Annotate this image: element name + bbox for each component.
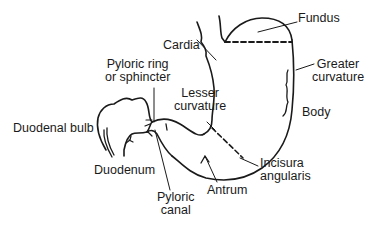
esophagus-right-wall — [219, 16, 225, 42]
label-incisura-line2: angularis — [260, 170, 311, 183]
label-cardia: Cardia — [163, 39, 200, 52]
label-pyloric-canal-line2: canal — [157, 204, 195, 217]
label-lesser-curvature-line2: curvature — [174, 100, 226, 113]
duodenum-wall — [107, 128, 114, 155]
leader-fundus — [258, 22, 297, 32]
label-duodenum: Duodenum — [94, 164, 155, 177]
antrum-lower-wall — [206, 134, 244, 160]
label-lesser-curvature: Lesser curvature — [174, 87, 226, 113]
label-greater-curvature: Greater curvature — [312, 58, 364, 84]
lesser-curvature-outline — [152, 119, 204, 135]
fundus-outline — [225, 18, 292, 42]
rugae-fold — [283, 70, 288, 116]
leader-incisura — [240, 158, 258, 166]
label-duodenal-bulb: Duodenal bulb — [13, 122, 94, 135]
label-greater-curvature-line2: curvature — [312, 71, 364, 84]
leader-pyloric-canal — [155, 130, 170, 190]
pyloric-notch — [166, 124, 167, 130]
stomach-diagram: Fundus Cardia Greater curvature Pyloric … — [0, 0, 372, 228]
label-pyloric-ring: Pyloric ring or sphincter — [105, 58, 170, 84]
label-pyloric-canal: Pyloric canal — [157, 191, 195, 217]
label-pyloric-ring-line2: or sphincter — [105, 71, 170, 84]
incisura-dashed — [212, 128, 243, 158]
label-antrum: Antrum — [207, 184, 247, 197]
duodenum-left-wall — [104, 130, 112, 157]
label-incisura-angularis: Incisura angularis — [260, 157, 311, 183]
label-fundus: Fundus — [298, 12, 340, 25]
label-body: Body — [302, 106, 331, 119]
duodenum-right-wall — [124, 132, 147, 156]
